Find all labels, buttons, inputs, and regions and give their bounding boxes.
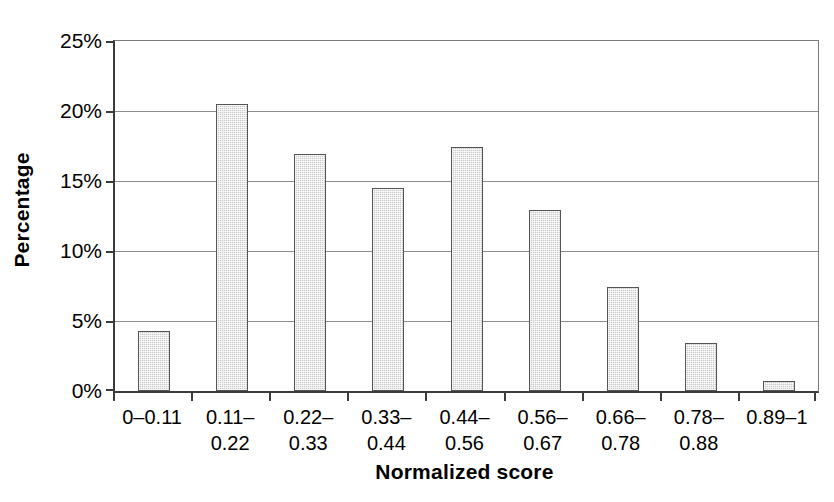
x-tick-label-line: 0.44– bbox=[425, 404, 503, 430]
x-tickmark bbox=[660, 392, 662, 401]
bar-chart-figure: Percentage 0%5%10%15%20%25% 0–0.110.11–0… bbox=[0, 0, 834, 502]
y-tick-label: 20% bbox=[60, 100, 102, 121]
x-tickmark bbox=[425, 392, 427, 401]
x-tick-label: 0.22–0.33 bbox=[269, 404, 347, 456]
x-axis-tickmarks bbox=[113, 392, 816, 402]
y-tick-label: 10% bbox=[60, 240, 102, 261]
bar bbox=[685, 343, 717, 391]
y-tickmark bbox=[106, 111, 115, 113]
x-tick-label-line: 0.56– bbox=[504, 404, 582, 430]
y-tickmark bbox=[106, 41, 115, 43]
bar bbox=[372, 188, 404, 391]
x-tick-label-line: 0.33– bbox=[347, 404, 425, 430]
x-tick-label: 0.33–0.44 bbox=[347, 404, 425, 456]
x-tick-label: 0.44–0.56 bbox=[425, 404, 503, 456]
x-tick-label-line: 0.78– bbox=[660, 404, 738, 430]
y-tickmark bbox=[106, 181, 115, 183]
y-tick-label: 25% bbox=[60, 30, 102, 51]
y-axis-title: Percentage bbox=[0, 0, 44, 420]
bar bbox=[607, 287, 639, 391]
x-tickmark bbox=[504, 392, 506, 401]
x-tick-label-line: 0.33 bbox=[269, 430, 347, 456]
x-tickmark bbox=[191, 392, 193, 401]
x-tickmark bbox=[269, 392, 271, 401]
x-tick-label: 0.11–0.22 bbox=[191, 404, 269, 456]
x-axis-title: Normalized score bbox=[113, 460, 816, 484]
x-tick-label-line: 0.22– bbox=[269, 404, 347, 430]
x-tick-label-line: 0.11– bbox=[191, 404, 269, 430]
y-tick-label: 15% bbox=[60, 170, 102, 191]
x-tick-label-line: 0.67 bbox=[504, 430, 582, 456]
x-tickmark bbox=[738, 392, 740, 401]
x-tick-label: 0.56–0.67 bbox=[504, 404, 582, 456]
x-tick-label: 0.66–0.78 bbox=[582, 404, 660, 456]
y-tickmark bbox=[106, 389, 115, 391]
x-tickmark bbox=[814, 392, 816, 401]
x-axis-tick-labels: 0–0.110.11–0.220.22–0.330.33–0.440.44–0.… bbox=[113, 404, 816, 460]
x-tick-label-line: 0.44 bbox=[347, 430, 425, 456]
x-tick-label-line: 0.22 bbox=[191, 430, 269, 456]
bars-group bbox=[115, 41, 818, 391]
y-tick-label: 0% bbox=[72, 380, 102, 401]
x-tick-label: 0–0.11 bbox=[113, 404, 191, 430]
bar bbox=[529, 210, 561, 391]
x-tickmark bbox=[113, 392, 115, 401]
x-tickmark bbox=[582, 392, 584, 401]
x-tick-label-line: 0.89–1 bbox=[738, 404, 816, 430]
plot-area bbox=[113, 40, 819, 393]
y-tickmark bbox=[106, 251, 115, 253]
x-tick-label-line: 0.88 bbox=[660, 430, 738, 456]
x-tick-label: 0.89–1 bbox=[738, 404, 816, 430]
x-tick-label-line: 0.56 bbox=[425, 430, 503, 456]
bar bbox=[763, 381, 795, 391]
bar bbox=[216, 104, 248, 391]
x-tick-label: 0.78–0.88 bbox=[660, 404, 738, 456]
x-tick-label-line: 0.66– bbox=[582, 404, 660, 430]
y-tickmark bbox=[106, 321, 115, 323]
bar bbox=[294, 154, 326, 391]
bar bbox=[138, 331, 170, 391]
x-tickmark bbox=[347, 392, 349, 401]
x-tick-label-line: 0.78 bbox=[582, 430, 660, 456]
y-tick-label: 5% bbox=[72, 310, 102, 331]
y-axis-tick-labels: 0%5%10%15%20%25% bbox=[44, 26, 106, 406]
x-tick-label-line: 0–0.11 bbox=[113, 404, 191, 430]
y-axis-title-text: Percentage bbox=[10, 152, 34, 267]
bar bbox=[451, 147, 483, 391]
